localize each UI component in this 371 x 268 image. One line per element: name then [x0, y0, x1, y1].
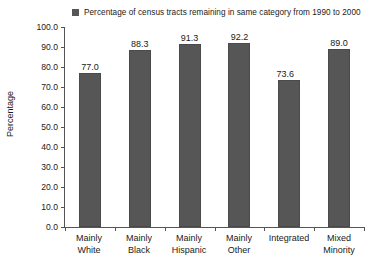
x-axis-category-line2: White [64, 245, 114, 257]
y-axis-title-text: Percentage [5, 91, 15, 137]
bar[interactable]: 77.0 [79, 73, 101, 227]
bar-value-label: 77.0 [81, 63, 99, 72]
x-axis-category-line2: Black [114, 245, 164, 257]
x-axis-category-line2: Hispanic [164, 245, 214, 257]
legend-label: Percentage of census tracts remaining in… [84, 8, 361, 17]
x-axis-category-line1: Mainly [126, 233, 152, 243]
x-axis-tick-mark [314, 227, 315, 231]
bar[interactable]: 73.6 [278, 80, 300, 227]
legend-square-marker-icon [72, 9, 79, 16]
bar-slot: 89.0 [314, 28, 364, 227]
x-axis-tick-mark [65, 227, 66, 231]
x-axis-category-label: MixedMinority [314, 233, 364, 256]
bar-series: 77.088.391.392.273.689.0 [65, 28, 364, 227]
y-axis-tick-label: 50.0 [41, 122, 58, 131]
bar-value-label: 91.3 [181, 34, 199, 43]
bar-chart: Percentage of census tracts remaining in… [0, 0, 371, 268]
bar-value-label: 73.6 [277, 70, 295, 79]
x-axis-tick-mark [115, 227, 116, 231]
y-axis-title: Percentage [2, 0, 18, 228]
x-axis-category-label: MainlyHispanic [164, 233, 214, 256]
x-axis-tick-mark [215, 227, 216, 231]
y-axis-tick-label: 0.0 [46, 222, 58, 231]
bar-value-label: 92.2 [231, 33, 249, 42]
bar-slot: 73.6 [264, 28, 314, 227]
x-axis-ticks [65, 227, 364, 231]
x-axis-labels: MainlyWhiteMainlyBlackMainlyHispanicMain… [64, 233, 364, 256]
x-axis-category-line2: Other [214, 245, 264, 257]
bar-value-label: 88.3 [131, 40, 149, 49]
bar[interactable]: 88.3 [129, 50, 151, 227]
y-axis-tick-label: 20.0 [41, 182, 58, 191]
y-axis-tick-label: 60.0 [41, 102, 58, 111]
y-axis-tick-label: 70.0 [41, 82, 58, 91]
bar-slot: 91.3 [165, 28, 215, 227]
x-axis-category-label: Integrated [264, 233, 314, 256]
y-axis-tick-label: 40.0 [41, 142, 58, 151]
plot-area: 100.090.080.070.060.050.040.030.020.010.… [64, 28, 364, 228]
y-axis-tick-label: 90.0 [41, 42, 58, 51]
x-axis-tick-mark [264, 227, 265, 231]
x-axis-category-line1: Mainly [176, 233, 202, 243]
chart-legend: Percentage of census tracts remaining in… [72, 8, 361, 17]
bar[interactable]: 91.3 [179, 44, 201, 227]
x-axis-tick-mark [165, 227, 166, 231]
bar-slot: 88.3 [115, 28, 165, 227]
x-axis-category-line1: Mainly [226, 233, 252, 243]
x-axis-tick-mark [364, 227, 365, 231]
y-axis-tick-label: 80.0 [41, 62, 58, 71]
bar[interactable]: 92.2 [228, 43, 250, 227]
bar-slot: 92.2 [214, 28, 264, 227]
x-axis-category-label: MainlyWhite [64, 233, 114, 256]
bar-value-label: 89.0 [330, 39, 348, 48]
x-axis-category-label: MainlyOther [214, 233, 264, 256]
x-axis-category-label: MainlyBlack [114, 233, 164, 256]
x-axis-category-line1: Integrated [269, 233, 310, 243]
bar-slot: 77.0 [65, 28, 115, 227]
y-axis-tick-label: 30.0 [41, 162, 58, 171]
x-axis-category-line2: Minority [314, 245, 364, 257]
x-axis-category-line1: Mainly [76, 233, 102, 243]
y-axis-tick-label: 100.0 [36, 22, 58, 31]
y-axis-tick-label: 10.0 [41, 202, 58, 211]
x-axis-category-line1: Mixed [327, 233, 351, 243]
bar[interactable]: 89.0 [328, 49, 350, 227]
